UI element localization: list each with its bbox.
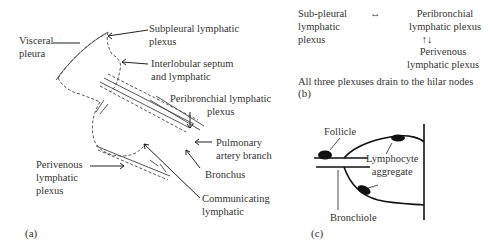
- label-line: Peribronchial lymphatic: [170, 92, 271, 105]
- label-line: Sub-pleural: [298, 7, 347, 20]
- label-line: and lymphatic: [151, 70, 234, 83]
- label-line: Visceral: [19, 34, 53, 47]
- label-line: lymphatic: [36, 171, 83, 184]
- label-line: Perivenous: [397, 45, 489, 58]
- label-subpleural-plexus: Subpleural lymphatic plexus: [149, 22, 239, 48]
- label-line: aggregate: [366, 165, 419, 178]
- label-line: Lymphocyte: [366, 152, 419, 165]
- panel-a-tag: (a): [25, 227, 37, 239]
- label-communicating-lymphatic: Communicating lymphatic: [202, 192, 270, 218]
- label-line: plexus: [170, 105, 271, 118]
- label-line: plexus: [298, 33, 347, 46]
- c-lymphocyte-aggregate-label: Lymphocyte aggregate: [366, 152, 419, 178]
- label-line: Bronchus: [205, 168, 245, 181]
- b-summary: All three plexuses drain to the hilar no…: [298, 75, 473, 88]
- label-line: artery branch: [216, 149, 272, 162]
- label-line: Subpleural lymphatic: [149, 22, 239, 35]
- label-line: Perivenous: [36, 158, 83, 171]
- label-visceral-pleura: Visceral pleura: [19, 34, 53, 60]
- label-pulmonary-artery: Pulmonary artery branch: [216, 136, 272, 162]
- label-line: Peribronchial: [399, 7, 490, 20]
- panel-b-tag: (b): [298, 87, 311, 99]
- c-follicle-label: Follicle: [324, 125, 356, 138]
- label-line: lymphatic plexus: [399, 20, 490, 33]
- panel-c-tag: (c): [311, 227, 323, 239]
- label-line: lymphatic plexus: [397, 58, 489, 71]
- label-line: Communicating: [202, 192, 270, 205]
- label-perivenous-plexus: Perivenous lymphatic plexus: [36, 158, 83, 197]
- b-horizontal-arrow-icon: ↔: [370, 7, 381, 20]
- label-line: lymphatic: [202, 205, 270, 218]
- label-line: Interlobular septum: [151, 57, 234, 70]
- label-line: pleura: [19, 47, 53, 60]
- label-interlobular-septum: Interlobular septum and lymphatic: [151, 57, 234, 83]
- label-line: plexus: [149, 35, 239, 48]
- b-peribronchial: Peribronchial lymphatic plexus: [399, 7, 490, 33]
- label-bronchus: Bronchus: [205, 168, 245, 181]
- c-bronchiole-label: Bronchiole: [330, 211, 377, 224]
- label-peribronchial-plexus: Peribronchial lymphatic plexus: [170, 92, 271, 118]
- label-line: Pulmonary: [216, 136, 272, 149]
- b-perivenous: Perivenous lymphatic plexus: [397, 45, 489, 71]
- label-line: lymphatic: [298, 20, 347, 33]
- label-line: plexus: [36, 184, 83, 197]
- b-subpleural: Sub-pleural lymphatic plexus: [298, 7, 347, 46]
